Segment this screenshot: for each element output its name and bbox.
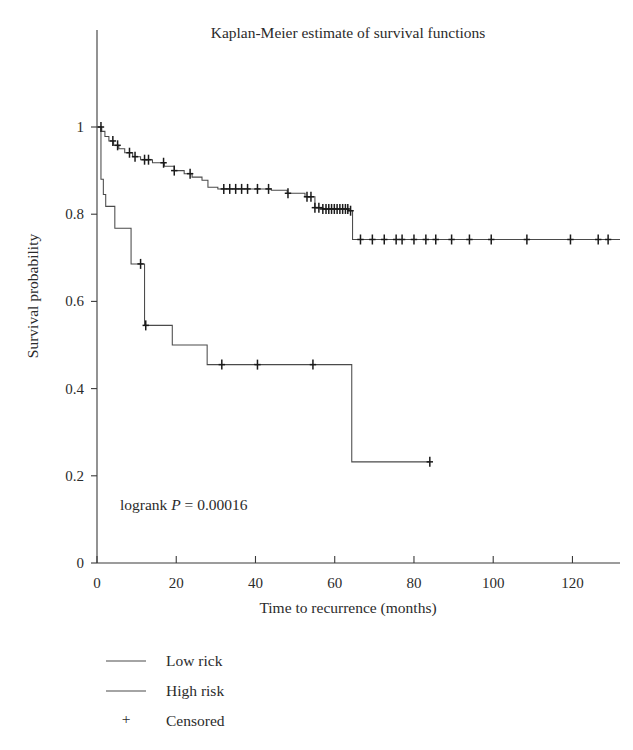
y-tick-label: 0.6 [65, 293, 84, 309]
x-tick-label: 20 [169, 575, 184, 591]
legend-swatch-censored-icon: + [122, 710, 131, 727]
chart-title: Kaplan-Meier estimate of survival functi… [211, 24, 486, 41]
y-tick-label: 0.8 [65, 206, 84, 222]
x-tick-label: 60 [327, 575, 342, 591]
x-tick-label: 40 [248, 575, 263, 591]
kaplan-meier-figure: Kaplan-Meier estimate of survival functi… [0, 0, 633, 750]
y-tick-label: 0.2 [65, 468, 84, 484]
x-tick-label: 0 [93, 575, 101, 591]
x-tick-label: 120 [561, 575, 584, 591]
x-axis-title: Time to recurrence (months) [259, 599, 436, 617]
logrank-annotation: logrank P = 0.00016 [120, 496, 248, 513]
y-tick-label: 1 [77, 119, 85, 135]
legend-label-censored: Censored [166, 712, 225, 729]
x-tick-label: 80 [406, 575, 421, 591]
y-tick-label: 0 [77, 555, 85, 571]
figure-background [0, 0, 633, 750]
legend-label-high-risk: High risk [166, 682, 224, 699]
x-tick-label: 100 [482, 575, 505, 591]
legend-label-low-risk: Low rick [166, 652, 223, 669]
y-axis-title: Survival probability [24, 234, 41, 359]
y-tick-label: 0.4 [65, 381, 84, 397]
survival-plot-svg: Kaplan-Meier estimate of survival functi… [0, 0, 633, 750]
